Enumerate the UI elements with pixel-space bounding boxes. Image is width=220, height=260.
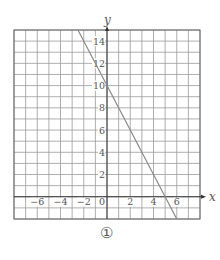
tick-labels: −6−4−202462468101214	[30, 36, 181, 207]
y-tick-label: 2	[99, 169, 105, 180]
data-line	[78, 30, 177, 219]
coordinate-plane: xy −6−4−202462468101214	[0, 0, 220, 225]
x-tick-label: 0	[99, 196, 105, 207]
x-axis-arrow-icon	[201, 195, 206, 199]
y-axis-label: y	[103, 13, 111, 27]
x-tick-label: 4	[150, 196, 156, 207]
axes: xy	[14, 13, 216, 219]
series-line	[78, 30, 177, 219]
y-tick-label: 4	[99, 147, 105, 158]
x-tick-label: 2	[127, 196, 133, 207]
figure-caption: ①	[0, 224, 212, 242]
x-tick-label: −4	[53, 196, 67, 207]
y-tick-label: 14	[93, 36, 105, 47]
x-axis-label: x	[209, 190, 216, 204]
x-tick-label: 6	[174, 196, 180, 207]
x-tick-label: −6	[30, 196, 44, 207]
y-tick-label: 6	[99, 125, 105, 136]
y-tick-label: 8	[99, 102, 105, 113]
x-tick-label: −2	[77, 196, 91, 207]
y-tick-label: 10	[93, 80, 105, 91]
